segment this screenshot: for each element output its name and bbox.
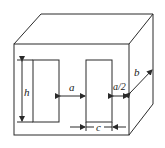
- depth-dimension: b: [130, 66, 152, 93]
- label-a-half: a/2: [113, 81, 126, 92]
- label-c: c: [96, 121, 101, 133]
- right-face: [129, 14, 153, 135]
- side-leg-dimension: a/2: [113, 81, 128, 96]
- window-width-dimension: c: [70, 121, 126, 133]
- left-window: [33, 60, 59, 122]
- transformer-core-diagram: h a a/2 b c: [0, 0, 165, 148]
- height-dimension: h: [17, 60, 33, 122]
- label-h: h: [24, 86, 30, 98]
- top-face: [14, 14, 153, 44]
- right-window: [86, 60, 112, 122]
- label-b: b: [134, 66, 140, 78]
- label-a: a: [69, 81, 75, 93]
- gap-dimension: a: [60, 81, 85, 96]
